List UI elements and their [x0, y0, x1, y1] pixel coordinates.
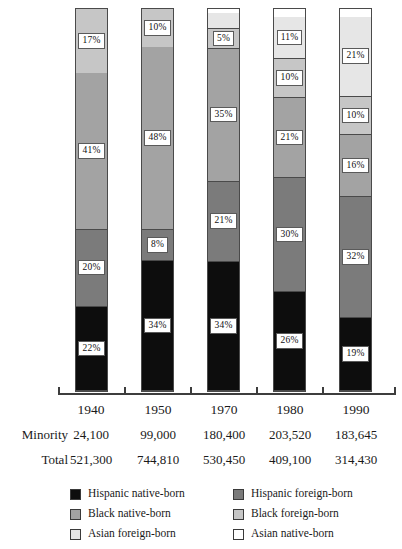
x-axis-tick-1 [124, 387, 126, 395]
bar-segment-1950-hispanic-foreign-born: 8% [142, 230, 173, 261]
bar-segment-percent-label: 34% [210, 318, 236, 334]
bar-segment-percent-label: 34% [144, 318, 170, 334]
stacked-bar-1980: 26%30%21%10%11% [273, 8, 306, 392]
bar-segment-percent-label: 11% [277, 30, 303, 46]
bar-segment-1970-asian-native-born [208, 9, 239, 13]
bar-segment-percent-label: 26% [276, 333, 302, 349]
legend-swatch-icon [233, 529, 244, 540]
legend-swatch-icon [233, 509, 244, 520]
bar-segment-percent-label: 30% [276, 227, 302, 243]
year-label-3: 1980 [257, 402, 323, 418]
minority-value-0: 24,100 [58, 427, 124, 443]
x-axis-tick-5 [394, 387, 396, 395]
legend-item-black-native-born: Black native-born [70, 506, 171, 522]
bar-segment-1990-asian-foreign-born: 21% [340, 17, 371, 97]
bar-segment-percent-label: 41% [78, 143, 104, 159]
bar-segment-1980-asian-native-born [274, 9, 305, 17]
bar-segment-percent-label: 19% [342, 346, 368, 362]
bar-segment-percent-label: 10% [342, 108, 368, 124]
bar-segment-1970-hispanic-foreign-born: 21% [208, 182, 239, 262]
bar-segment-1940-hispanic-foreign-born: 20% [76, 230, 107, 307]
bar-segment-percent-label: 17% [78, 33, 104, 49]
legend-label: Hispanic foreign-born [251, 488, 353, 500]
bar-segment-1940-black-native-born: 41% [76, 73, 107, 229]
stacked-bar-1950: 34%8%48%10% [141, 8, 174, 392]
x-axis-line [58, 393, 395, 395]
bar-segment-1970-black-native-born: 35% [208, 49, 239, 182]
bar-segment-percent-label: 48% [144, 130, 170, 146]
table-row-minority: Minority 24,100 99,000 180,400 203,520 1… [0, 423, 402, 448]
bar-segment-percent-label: 21% [276, 130, 302, 146]
legend-label: Hispanic native-born [88, 488, 185, 500]
total-value-0: 521,300 [58, 452, 124, 468]
data-table-under-axis: 1940 1950 1970 1980 1990 Minority 24,100… [0, 398, 402, 473]
total-value-1: 744,810 [125, 452, 191, 468]
legend-item-black-foreign-born: Black foreign-born [233, 506, 339, 522]
legend-swatch-icon [70, 509, 81, 520]
bar-segment-1980-black-native-born: 21% [274, 98, 305, 178]
bar-segment-1980-hispanic-foreign-born: 30% [274, 178, 305, 292]
bar-segment-1990-black-foreign-born: 10% [340, 97, 371, 136]
minority-value-3: 203,520 [257, 427, 323, 443]
bar-segment-percent-label: 16% [342, 158, 368, 174]
bar-segment-percent-label: 35% [210, 107, 236, 123]
bar-segment-percent-label: 10% [276, 70, 302, 86]
x-axis-tick-4 [322, 387, 324, 395]
legend-item-asian-native-born: Asian native-born [233, 526, 334, 542]
legend-label: Black native-born [88, 508, 171, 520]
stacked-bar-chart-plot-area: 22%20%41%17%34%8%48%10%34%21%35%5%26%30%… [0, 0, 402, 396]
bar-segment-1940-black-foreign-born: 17% [76, 9, 107, 73]
legend-label: Asian native-born [251, 528, 334, 540]
minority-value-2: 180,400 [191, 427, 257, 443]
legend-swatch-icon [70, 529, 81, 540]
bar-segment-1950-hispanic-native-born: 34% [142, 261, 173, 391]
bar-segment-1970-asian-foreign-born [208, 13, 239, 29]
bar-segment-1990-black-native-born: 16% [340, 135, 371, 196]
year-label-4: 1990 [323, 402, 389, 418]
bar-segment-1990-asian-native-born [340, 9, 371, 17]
legend-label: Black foreign-born [251, 508, 339, 520]
bar-segment-percent-label: 5% [213, 31, 234, 47]
bar-segment-percent-label: 20% [78, 260, 104, 276]
bar-segment-1990-hispanic-foreign-born: 32% [340, 197, 371, 319]
total-value-4: 314,430 [323, 452, 389, 468]
total-value-2: 530,450 [191, 452, 257, 468]
bar-segment-1980-asian-foreign-born: 11% [274, 17, 305, 59]
bar-segment-1950-black-foreign-born: 10% [142, 9, 173, 47]
x-axis-tick-2 [190, 387, 192, 395]
total-value-3: 409,100 [257, 452, 323, 468]
year-label-0: 1940 [58, 402, 124, 418]
minority-value-4: 183,645 [323, 427, 389, 443]
x-axis-tick-3 [256, 387, 258, 395]
legend-item-hispanic-native-born: Hispanic native-born [70, 486, 185, 502]
bar-segment-percent-label: 21% [210, 213, 236, 229]
legend-item-hispanic-foreign-born: Hispanic foreign-born [233, 486, 353, 502]
bar-segment-percent-label: 22% [78, 341, 104, 357]
bar-segment-1980-hispanic-native-born: 26% [274, 292, 305, 391]
bar-segment-percent-label: 21% [342, 48, 368, 64]
bar-segment-1950-black-native-born: 48% [142, 47, 173, 230]
minority-value-1: 99,000 [125, 427, 191, 443]
legend-swatch-icon [70, 489, 81, 500]
bar-segment-1980-black-foreign-born: 10% [274, 59, 305, 98]
stacked-bar-1990: 19%32%16%10%21% [339, 8, 372, 392]
bar-segment-percent-label: 8% [147, 237, 168, 253]
stacked-bar-1970: 34%21%35%5% [207, 8, 240, 392]
table-row-years: 1940 1950 1970 1980 1990 [0, 398, 402, 423]
bar-segment-percent-label: 32% [342, 249, 368, 265]
year-label-1: 1950 [125, 402, 191, 418]
bar-segment-1970-black-foreign-born: 5% [208, 29, 239, 49]
year-label-2: 1970 [191, 402, 257, 418]
bar-segment-1990-hispanic-native-born: 19% [340, 318, 371, 391]
bar-segment-1940-hispanic-native-born: 22% [76, 307, 107, 391]
bar-segment-percent-label: 10% [144, 20, 170, 36]
legend-item-asian-foreign-born: Asian foreign-born [70, 526, 176, 542]
x-axis-tick-0 [58, 387, 60, 395]
bar-segment-1970-hispanic-native-born: 34% [208, 262, 239, 391]
legend-label: Asian foreign-born [88, 528, 176, 540]
legend-swatch-icon [233, 489, 244, 500]
stacked-bar-1940: 22%20%41%17% [75, 8, 108, 392]
table-row-total: Total 521,300 744,810 530,450 409,100 31… [0, 448, 402, 473]
